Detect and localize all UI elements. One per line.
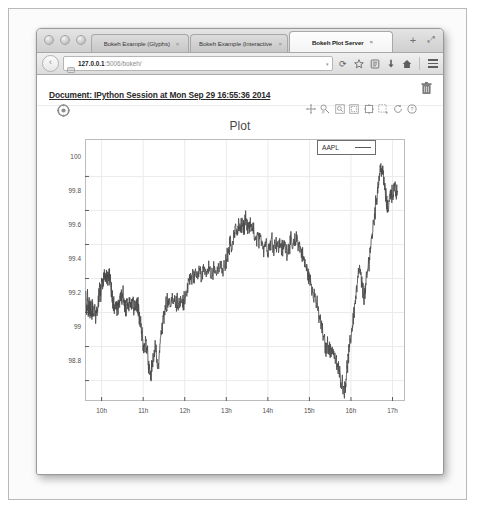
home-icon[interactable] <box>401 58 412 69</box>
y-tick-label: 99.8 <box>47 187 81 194</box>
tab-bokeh-example-glyphs[interactable]: Bokeh Example (Glyphs) × <box>91 34 189 52</box>
crosshair-tool-icon[interactable] <box>364 104 374 114</box>
svg-text:?: ? <box>411 106 414 112</box>
legend[interactable]: AAPL <box>317 140 376 155</box>
navigation-bar: ‹ 127.0.0.1:5006/bokeh/ ▾ ⟳ <box>37 53 443 75</box>
plot-title: Plot <box>47 119 433 133</box>
toolbar-icons <box>353 57 438 70</box>
browser-window: Bokeh Example (Glyphs) × Bokeh Example (… <box>36 28 444 475</box>
chevron-down-icon[interactable]: ▾ <box>323 61 329 67</box>
y-axis: 100 99.8 99.6 99.4 99.2 99 98.8 <box>47 139 81 401</box>
minimize-window-button[interactable] <box>60 35 70 45</box>
document-header: Document: IPython Session at Mon Sep 29 … <box>37 75 443 94</box>
svg-text:P: P <box>322 110 325 114</box>
tab-close-icon[interactable]: × <box>278 41 282 47</box>
tab-list: Bokeh Example (Glyphs) × Bokeh Example (… <box>91 31 399 52</box>
x-tick-label: 16h <box>336 407 366 414</box>
legend-swatch-aapl <box>355 147 371 148</box>
y-tick-label: 99.2 <box>47 289 81 296</box>
plot-toolbar: P <box>306 104 418 114</box>
y-tick-label: 99.6 <box>47 221 81 228</box>
lasso-select-tool-icon[interactable] <box>378 104 388 114</box>
page-content: Document: IPython Session at Mon Sep 29 … <box>37 75 443 474</box>
new-tab-button[interactable]: + <box>407 35 419 47</box>
reset-tool-icon[interactable] <box>393 104 403 114</box>
help-tool-icon[interactable]: ? <box>407 104 417 114</box>
close-window-button[interactable] <box>44 35 54 45</box>
downloads-icon[interactable] <box>385 58 396 69</box>
box-zoom-tool-icon[interactable] <box>335 104 345 114</box>
tab-bokeh-example-interactive[interactable]: Bokeh Example (Interactive) × <box>190 34 288 52</box>
x-axis: 10h 11h 12h 13h 14h 15h 16h 17h <box>85 401 405 417</box>
x-tick-label: 12h <box>170 407 200 414</box>
tab-close-icon[interactable]: × <box>176 41 180 47</box>
tab-label: Bokeh Example (Glyphs) <box>104 40 170 47</box>
y-tick-label: 98.8 <box>47 357 81 364</box>
reader-icon[interactable] <box>369 58 380 69</box>
reload-icon[interactable]: ⟳ <box>336 59 349 69</box>
tab-label: Bokeh Plot Server <box>312 39 364 46</box>
y-tick-label: 99 <box>47 323 81 330</box>
maximize-icon[interactable]: ⤢ <box>425 33 437 45</box>
tab-label: Bokeh Example (Interactive) <box>199 40 272 47</box>
url-path: :5006/bokeh/ <box>105 60 142 67</box>
back-button[interactable]: ‹ <box>42 55 59 72</box>
url-bar[interactable]: 127.0.0.1:5006/bokeh/ ▾ <box>63 56 333 71</box>
screenshot-root: Bokeh Example (Glyphs) × Bokeh Example (… <box>0 0 477 510</box>
box-select-tool-icon[interactable] <box>349 104 359 114</box>
trash-icon[interactable] <box>421 81 432 94</box>
window-controls <box>44 35 86 45</box>
x-tick-label: 14h <box>253 407 283 414</box>
zoom-window-button[interactable] <box>76 35 86 45</box>
x-tick-label: 10h <box>87 407 117 414</box>
tab-bokeh-plot-server[interactable]: Bokeh Plot Server × <box>289 31 393 52</box>
x-tick-label: 17h <box>378 407 408 414</box>
bokeh-plot: P <box>47 96 433 426</box>
site-identity-icon <box>67 60 75 68</box>
x-tick-label: 13h <box>211 407 241 414</box>
y-tick-label: 99.4 <box>47 254 81 261</box>
url-host: 127.0.0.1 <box>78 60 105 67</box>
plot-canvas[interactable]: AAPL <box>85 139 405 401</box>
bokeh-logo-icon <box>57 103 70 116</box>
tab-close-icon[interactable]: × <box>370 39 374 45</box>
x-tick-label: 11h <box>128 407 158 414</box>
url-text: 127.0.0.1:5006/bokeh/ <box>78 60 142 67</box>
pan-tool-icon[interactable] <box>306 104 316 114</box>
wheel-zoom-tool-icon[interactable]: P <box>320 104 330 114</box>
menu-icon[interactable] <box>427 58 438 69</box>
tab-strip: Bokeh Example (Glyphs) × Bokeh Example (… <box>37 29 443 53</box>
toolbar-separator <box>419 57 420 70</box>
plot-svg <box>85 139 405 401</box>
legend-label-aapl: AAPL <box>322 144 339 151</box>
x-tick-label: 15h <box>294 407 324 414</box>
bookmark-star-icon[interactable] <box>353 58 364 69</box>
y-tick-label: 100 <box>47 153 81 160</box>
